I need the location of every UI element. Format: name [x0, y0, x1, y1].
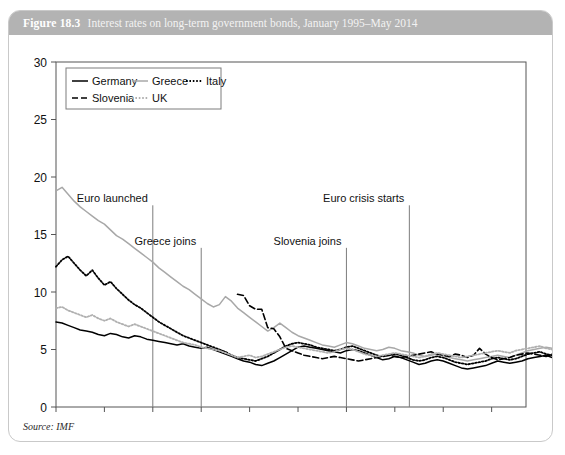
annotation-label-1: Greece joins	[134, 235, 196, 247]
figure-caption: Interest rates on long-term government b…	[88, 17, 418, 29]
annotation-label-0: Euro launched	[77, 192, 148, 204]
x-tick-label-2009M1: 2009M1	[373, 414, 417, 415]
series-line-uk	[56, 307, 553, 388]
x-tick-label-2005M1: 2005M1	[276, 414, 320, 415]
series-line-greece	[56, 75, 553, 361]
legend-label-germany: Germany	[92, 75, 138, 87]
legend-label-italy: Italy	[206, 75, 227, 87]
y-tick-label-0: 0	[40, 401, 47, 415]
series-line-italy	[56, 256, 553, 370]
annotation-label-3: Euro crisis starts	[323, 192, 405, 204]
legend-label-greece: Greece	[152, 75, 188, 87]
x-tick-label-2011M1: 2011M1	[422, 414, 465, 415]
annotation-label-2: Slovenia joins	[274, 235, 342, 247]
figure-title-bar: Figure 18.3 Interest rates on long-term …	[9, 11, 552, 35]
x-tick-label-2001M1: 2001M1	[180, 414, 224, 415]
line-chart: 0510152025301995M11997M11999M12001M12003…	[9, 35, 553, 415]
series-line-germany	[56, 322, 553, 392]
y-tick-label-25: 25	[34, 113, 48, 127]
y-tick-label-30: 30	[34, 56, 48, 70]
x-tick-label-1995M1: 1995M1	[34, 414, 78, 415]
legend-label-uk: UK	[152, 92, 168, 104]
x-tick-label-1999M1: 1999M1	[131, 414, 175, 415]
x-tick-label-2013M1: 2013M1	[470, 414, 514, 415]
figure-number: Figure 18.3	[23, 17, 81, 29]
x-tick-label-2007M1: 2007M1	[325, 414, 369, 415]
chart-plot-area: 0510152025301995M11997M11999M12001M12003…	[9, 35, 553, 415]
y-tick-label-5: 5	[40, 343, 47, 357]
legend-box	[66, 68, 221, 109]
x-tick-label-2003M1: 2003M1	[228, 414, 272, 415]
y-tick-label-15: 15	[34, 228, 48, 242]
y-tick-label-10: 10	[34, 286, 48, 300]
x-tick-label-1997M1: 1997M1	[83, 414, 127, 415]
legend-label-slovenia: Slovenia	[92, 92, 135, 104]
source-note: Source: IMF	[23, 421, 74, 432]
figure-card: Figure 18.3 Interest rates on long-term …	[8, 10, 553, 442]
y-tick-label-20: 20	[34, 171, 48, 185]
